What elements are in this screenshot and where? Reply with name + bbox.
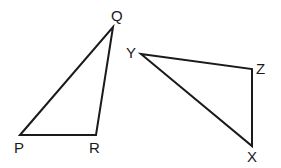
- triangle-xyz: [141, 54, 252, 146]
- triangle-pqr: [20, 27, 113, 135]
- vertex-label-y: Y: [126, 44, 136, 61]
- vertex-label-q: Q: [111, 7, 123, 24]
- vertex-label-z: Z: [256, 60, 265, 77]
- vertex-label-r: R: [89, 139, 100, 156]
- geometry-diagram: P Q R Y Z X: [0, 0, 281, 168]
- vertex-label-p: P: [14, 139, 24, 156]
- vertex-label-x: X: [247, 148, 257, 165]
